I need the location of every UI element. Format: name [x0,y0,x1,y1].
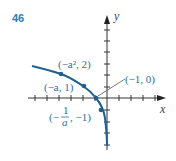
svg-text:a: a [62,116,68,128]
point-neg-1-over-a-neg-1 [99,108,104,113]
point-neg-a-1 [82,84,87,89]
svg-text:(−: (− [49,111,59,124]
graph: x y (−a², 2) (−a, 1) (−1, 0) (− 1 [0,0,176,161]
leader-line [98,79,125,96]
label-neg-1-0: (−1, 0) [125,73,155,86]
x-axis-label: x [159,102,166,116]
point-neg-a-squared-2 [59,72,64,77]
svg-text:1: 1 [63,104,69,116]
y-axis-label: y [113,9,120,23]
svg-text:, −1): , −1) [70,111,91,124]
label-neg-a-1: (−a, 1) [44,81,74,94]
log-curve [32,66,107,146]
label-neg-a-squared-2: (−a², 2) [58,58,91,71]
label-neg-1-over-a-neg-1: (− 1 a , −1) [49,104,91,128]
point-neg-1-0 [94,96,99,101]
